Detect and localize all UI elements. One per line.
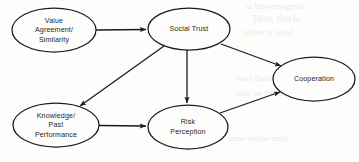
knowledge-label-line3: Performance [35, 131, 77, 139]
risk-perception-label-line2: Perception [170, 128, 205, 136]
value-agreement-label-line3: Similarity [39, 36, 70, 44]
risk-perception-label-line1: Risk [181, 118, 196, 126]
node-value-agreement[interactable]: Value Agreement/ Similarity [12, 8, 96, 52]
causal-model-diagram: Value Agreement/ Similarity Social Trust… [0, 0, 359, 162]
node-cooperation[interactable]: Cooperation [273, 57, 355, 101]
knowledge-label-line1: Knowledge/ [37, 112, 76, 120]
value-agreement-label-line2: Agreement/ [35, 26, 73, 34]
value-agreement-label-line1: Value [45, 17, 63, 25]
social-trust-label: Social Trust [170, 25, 209, 33]
diagram-canvas: or between agents Trust, that is notion … [0, 0, 359, 162]
knowledge-label-line2: Past [49, 121, 64, 129]
edge-value-agreement-to-social-trust [96, 30, 146, 31]
edge-risk-perception-to-cooperation [220, 92, 280, 113]
cooperation-label: Cooperation [294, 75, 334, 83]
node-risk-perception[interactable]: Risk Perception [148, 105, 228, 149]
edge-social-trust-to-knowledge [80, 46, 164, 106]
edge-social-trust-to-cooperation [221, 44, 281, 66]
node-knowledge-past-performance[interactable]: Knowledge/ Past Performance [13, 103, 99, 147]
edge-knowledge-to-risk-perception [99, 126, 146, 127]
node-social-trust[interactable]: Social Trust [148, 8, 230, 50]
